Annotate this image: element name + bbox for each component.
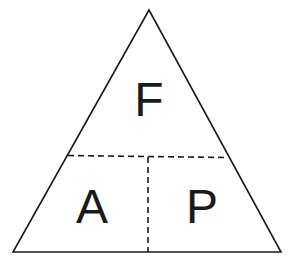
- triangle-outline: [0, 0, 289, 263]
- bottom-left-variable-label: A: [62, 183, 122, 231]
- top-variable-label: F: [119, 76, 179, 124]
- triangle-border: [13, 10, 281, 252]
- formula-triangle: F A P: [0, 0, 289, 263]
- bottom-right-variable-label: P: [172, 183, 232, 231]
